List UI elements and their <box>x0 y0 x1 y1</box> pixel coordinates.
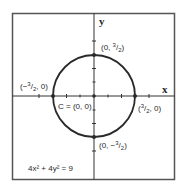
label-top-point: (0, 3/2) <box>101 42 124 53</box>
point-center <box>92 94 96 98</box>
label-right-point: (3/2, 0) <box>138 103 161 114</box>
x-axis-label: x <box>162 83 168 95</box>
label-left-point: (−3/2, 0) <box>20 81 48 92</box>
diagram-canvas: y x (0, 3/2) (−3/2, 0) C = (0, 0) (3/2, … <box>0 0 184 188</box>
point-bottom <box>92 135 96 139</box>
point-right <box>133 94 137 98</box>
circle-diagram: y x (0, 3/2) (−3/2, 0) C = (0, 0) (3/2, … <box>0 0 184 188</box>
point-left <box>51 94 55 98</box>
label-bottom-point: (0, −3/2) <box>99 140 127 151</box>
label-center: C = (0, 0) <box>58 102 92 111</box>
point-top <box>92 53 96 57</box>
equation-label: 4x² + 4y² = 9 <box>28 164 73 173</box>
y-axis-label: y <box>99 15 105 27</box>
